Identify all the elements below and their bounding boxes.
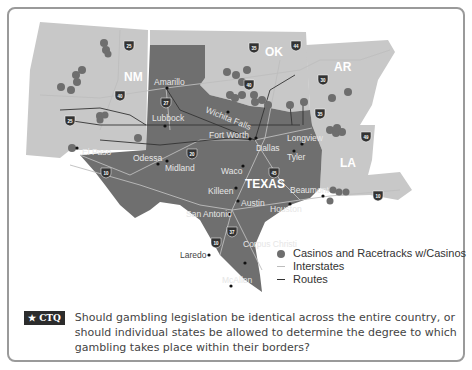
shield-icon: 35 (249, 43, 259, 53)
ctq-badge: ★ CTQ (24, 311, 65, 325)
city-houston: Houston (270, 204, 302, 214)
city-odessa: Odessa (133, 153, 163, 163)
svg-text:49: 49 (363, 135, 369, 140)
svg-text:20: 20 (189, 152, 195, 157)
shield-icon: 27 (161, 98, 171, 108)
city-mcallen: McAllen (222, 275, 253, 285)
city-amarillo: Amarillo (154, 77, 185, 87)
svg-text:45: 45 (271, 171, 277, 176)
svg-text:35: 35 (317, 112, 323, 117)
legend-item-routes: Routes (274, 273, 466, 286)
legend-label: Casinos and Racetracks w/Casinos (293, 247, 466, 260)
shield-icon: 25 (124, 41, 134, 51)
city-killeen: Killeen (208, 186, 234, 196)
svg-text:44: 44 (293, 44, 299, 49)
label-ar: AR (334, 60, 352, 74)
svg-text:25: 25 (67, 119, 73, 124)
shield-icon: 35 (315, 109, 325, 119)
svg-text:37: 37 (229, 230, 235, 235)
legend-label: Routes (293, 273, 328, 286)
svg-text:27: 27 (163, 101, 169, 106)
svg-text:10: 10 (103, 171, 109, 176)
city-san-antonio: San Antonio (186, 209, 232, 219)
label-la: LA (340, 156, 356, 170)
svg-text:25: 25 (126, 44, 132, 49)
shield-icon: 40 (244, 80, 254, 90)
city-laredo: Laredo (180, 250, 207, 260)
label-tx: TEXAS (245, 177, 285, 191)
city-el-paso: El Paso (82, 147, 112, 157)
casino-dot-icon (277, 250, 285, 258)
legend-label: Interstates (293, 260, 344, 273)
city-beaumont: Beaumont (290, 185, 329, 195)
city-fort-worth: Fort Worth (209, 130, 249, 140)
label-ok: OK (265, 45, 283, 59)
shield-icon: 10 (211, 238, 221, 248)
shield-icon: 40 (115, 91, 125, 101)
city-austin: Austin (241, 198, 265, 208)
shield-icon: 10 (373, 191, 383, 201)
shield-icon: 20 (187, 149, 197, 159)
svg-text:40: 40 (117, 94, 123, 99)
route-line-icon (277, 279, 285, 281)
shield-icon: 49 (361, 132, 371, 142)
city-dallas: Dallas (256, 143, 280, 153)
svg-text:35: 35 (251, 46, 257, 51)
shield-icon: 45 (269, 168, 279, 178)
shield-icon: 10 (101, 168, 111, 178)
city-waco: Waco (221, 166, 243, 176)
shield-icon: 37 (227, 227, 237, 237)
legend-item-casinos: Casinos and Racetracks w/Casinos (274, 247, 466, 260)
interstate-line-icon (277, 266, 285, 267)
svg-text:30: 30 (320, 78, 326, 83)
map-legend: Casinos and Racetracks w/Casinos Interst… (274, 247, 466, 286)
city-tyler: Tyler (287, 152, 306, 162)
city-longview: Longview (287, 133, 324, 143)
svg-text:10: 10 (213, 241, 219, 246)
legend-item-interstates: Interstates (274, 260, 466, 273)
ctq-block: ★ CTQ Should gambling legislation be ide… (24, 310, 460, 355)
label-nm: NM (124, 70, 143, 84)
svg-text:10: 10 (375, 194, 381, 199)
ctq-question: Should gambling legislation be identical… (75, 310, 460, 355)
shield-icon: 25 (65, 116, 75, 126)
svg-text:40: 40 (246, 83, 252, 88)
city-midland: Midland (165, 163, 195, 173)
shield-icon: 30 (318, 75, 328, 85)
city-lubbock: Lubbock (152, 113, 185, 123)
shield-icon: 44 (291, 41, 301, 51)
